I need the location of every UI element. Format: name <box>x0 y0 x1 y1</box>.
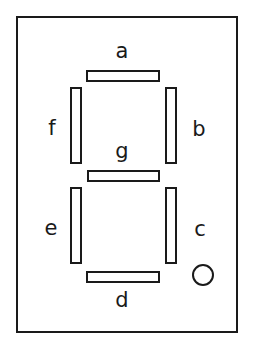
segment-label-b: b <box>190 119 208 140</box>
segment-label-g: g <box>113 141 131 162</box>
segment-label-d: d <box>113 290 131 311</box>
segment-label-e: e <box>42 218 60 239</box>
segment-g <box>87 170 160 182</box>
seven-segment-display-diagram: a b c d e f g <box>0 0 254 349</box>
segment-label-f: f <box>43 118 61 139</box>
segment-d <box>86 271 160 283</box>
decimal-point-circle <box>192 264 214 286</box>
segment-a <box>86 70 160 82</box>
segment-b <box>165 87 177 164</box>
segment-label-a: a <box>113 41 131 62</box>
segment-c <box>165 187 177 264</box>
segment-e <box>70 187 82 264</box>
segment-label-c: c <box>191 219 209 240</box>
segment-f <box>70 87 82 164</box>
